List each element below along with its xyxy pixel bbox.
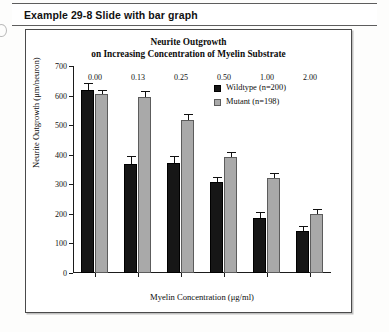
error-bar-stem	[131, 156, 132, 163]
legend-label-mutant: Mutant (n=198)	[226, 95, 279, 109]
y-tick-label: 500	[55, 121, 67, 130]
example-header-bar: Example 29-8 Slide with bar graph	[12, 3, 377, 26]
bar-mutant	[138, 97, 151, 273]
chart-title-line-2: on Increasing Concentration of Myelin Su…	[26, 49, 351, 61]
chart-title: Neurite Outgrowth on Increasing Concentr…	[26, 37, 351, 60]
bar-wildtype	[210, 182, 223, 273]
y-tick-label: 100	[55, 239, 67, 248]
error-bar-cap	[256, 212, 265, 213]
chart-title-line-1: Neurite Outgrowth	[26, 37, 351, 49]
x-tick-label: 2.00	[303, 73, 317, 82]
legend-swatch-mutant-icon	[214, 99, 221, 106]
x-tick	[95, 273, 96, 277]
error-bar-cap	[141, 91, 150, 92]
x-axis-line	[73, 272, 331, 273]
y-axis-line	[73, 66, 74, 273]
y-tick-label: 600	[55, 91, 67, 100]
x-tick-label: 0.25	[174, 73, 188, 82]
error-bar-cap	[299, 226, 308, 227]
error-bar-cap	[84, 83, 93, 84]
chart-figure-box: Neurite Outgrowth on Increasing Concentr…	[25, 29, 352, 313]
y-tick-label: 400	[55, 150, 67, 159]
bar-mutant	[310, 214, 323, 273]
bar-mutant	[181, 120, 194, 273]
error-bar-cap	[313, 209, 322, 210]
bar-mutant	[224, 157, 237, 273]
legend-item-wildtype: Wildtype (n=200)	[214, 81, 286, 95]
x-tick-label: 0.13	[131, 73, 145, 82]
bar-mutant	[95, 94, 108, 273]
error-bar-cap	[127, 156, 136, 157]
x-tick-label: 0.00	[88, 73, 102, 82]
x-tick	[224, 273, 225, 277]
bar-mutant	[267, 178, 280, 273]
legend-label-wildtype: Wildtype (n=200)	[226, 81, 286, 95]
error-bar-cap	[227, 152, 236, 153]
legend-item-mutant: Mutant (n=198)	[214, 95, 286, 109]
x-tick	[181, 273, 182, 277]
example-header-label: Example 29-8 Slide with bar graph	[12, 9, 198, 21]
plot-area: 0100200300400500600700 0.000.130.250.501…	[73, 66, 331, 273]
bar-wildtype	[124, 164, 137, 273]
y-tick-label: 700	[55, 62, 67, 71]
error-bar-cap	[213, 177, 222, 178]
bar-wildtype	[81, 90, 94, 273]
chart-legend: Wildtype (n=200) Mutant (n=198)	[214, 81, 286, 109]
y-axis-label: Neurite Outgrowth (μm/neuron)	[31, 57, 41, 168]
y-tick-label: 300	[55, 180, 67, 189]
x-tick	[310, 273, 311, 277]
legend-swatch-wildtype-icon	[214, 85, 221, 92]
error-bar-cap	[170, 156, 179, 157]
y-tick-label: 200	[55, 209, 67, 218]
x-axis-label: Myelin Concentration (μg/ml)	[73, 292, 331, 302]
bar-wildtype	[253, 218, 266, 273]
x-tick	[267, 273, 268, 277]
bar-wildtype	[167, 163, 180, 273]
bar-wildtype	[296, 231, 309, 273]
error-bar-cap	[184, 114, 193, 115]
y-tick-label: 0	[63, 269, 67, 278]
error-bar-cap	[270, 173, 279, 174]
x-tick	[138, 273, 139, 277]
error-bar-cap	[98, 90, 107, 91]
